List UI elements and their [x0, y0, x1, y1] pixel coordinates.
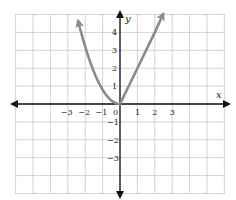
y-axis-label: y	[124, 13, 131, 24]
x-axis-label: x	[216, 89, 222, 100]
y-tick-label: −2	[107, 136, 119, 145]
y-tick-label: −1	[107, 118, 119, 127]
y-tick-label: 3	[112, 46, 117, 55]
x-tick-label: 3	[170, 108, 175, 117]
x-tick-label: 2	[152, 108, 157, 117]
x-tick-label: 1	[135, 108, 140, 117]
coordinate-plane: x y −3−2−101234321−1−2−3	[0, 0, 236, 200]
x-tick-label: −2	[78, 108, 90, 117]
y-tick-label: 1	[112, 82, 117, 91]
tick-labels: −3−2−101234321−1−2−3	[61, 28, 175, 162]
x-tick-label: 0	[113, 108, 118, 117]
y-tick-label: 2	[112, 64, 117, 73]
y-tick-label: 4	[112, 28, 117, 37]
x-tick-label: −3	[61, 108, 73, 117]
line-branch	[120, 15, 163, 105]
y-tick-label: −3	[107, 154, 119, 163]
x-tick-label: −1	[96, 108, 108, 117]
